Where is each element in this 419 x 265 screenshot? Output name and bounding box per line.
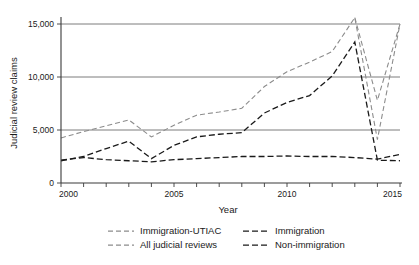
x-tick-label-2010: 2010: [278, 189, 297, 199]
x-tick-label-2000: 2000: [59, 189, 78, 199]
x-tick-label-2015: 2015: [383, 189, 402, 199]
chart-figure: 05,00010,00015,000 2000200520102015 Judi…: [0, 0, 419, 265]
y-tick-label-5000: 5,000: [33, 125, 55, 135]
x-tick-label-2005: 2005: [165, 189, 184, 199]
y-axis-tick-labels: 05,00010,00015,000: [28, 19, 54, 188]
legend-item-immigration-utiac[interactable]: Immigration-UTIAC: [108, 225, 221, 236]
gridlines: [61, 24, 400, 130]
y-tick-label-0: 0: [49, 178, 54, 188]
y-tick-label-10000: 10,000: [28, 72, 54, 82]
legend-label-all-judicial-reviews: All judicial reviews: [140, 239, 217, 250]
x-axis-title: Year: [218, 204, 237, 215]
series-line-all-judicial-reviews: [61, 18, 400, 140]
legend-item-all-judicial-reviews[interactable]: All judicial reviews: [108, 239, 217, 250]
y-tick-label-15000: 15,000: [28, 19, 54, 29]
judicial-review-claims-line-chart: 05,00010,00015,000 2000200520102015 Judi…: [0, 0, 419, 265]
legend-label-immigration: Immigration: [275, 225, 325, 236]
x-axis-tick-labels: 2000200520102015: [59, 189, 402, 199]
legend-label-immigration-utiac: Immigration-UTIAC: [140, 225, 221, 236]
series-line-immigration-utiac: [355, 18, 400, 101]
series-line-immigration: [61, 42, 400, 161]
series-layer: [61, 18, 400, 162]
axes-layer: [61, 17, 402, 183]
tick-marks: [57, 24, 400, 187]
legend-label-non-immigration: Non-immigration: [275, 239, 345, 250]
legend-item-immigration[interactable]: Immigration: [243, 225, 325, 236]
series-line-non-immigration: [61, 154, 400, 161]
chart-legend: Immigration-UTIACImmigrationAll judicial…: [108, 225, 345, 250]
y-axis-title: Judicial review claims: [8, 57, 19, 149]
legend-item-non-immigration[interactable]: Non-immigration: [243, 239, 345, 250]
